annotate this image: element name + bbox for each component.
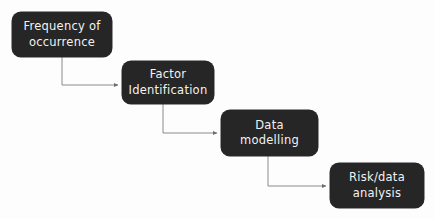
connector-modelling-to-risk	[268, 156, 326, 186]
flow-node-frequency-of-occurrence[interactable]: Frequency of occurrence	[12, 12, 112, 57]
flow-node-data-modelling[interactable]: Data modelling	[221, 110, 318, 156]
flow-node-label: Risk/data analysis	[343, 170, 411, 200]
flowchart-canvas: Frequency of occurrence Factor Identific…	[0, 0, 434, 219]
flow-node-label: Data modelling	[234, 118, 305, 148]
flow-node-label: Frequency of occurrence	[17, 19, 106, 49]
connector-frequency-to-factor	[62, 57, 118, 85]
connector-factor-to-modelling	[163, 104, 217, 133]
flow-node-factor-identification[interactable]: Factor Identification	[122, 61, 214, 104]
flow-node-label: Factor Identification	[123, 67, 214, 97]
flow-node-risk-data-analysis[interactable]: Risk/data analysis	[330, 163, 424, 208]
